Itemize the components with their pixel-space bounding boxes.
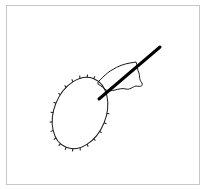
cell-injection-drawing	[0, 0, 204, 189]
surface-projections	[39, 65, 122, 160]
oval-cell	[39, 65, 122, 160]
